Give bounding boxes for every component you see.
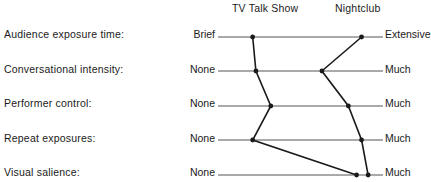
nightclub-node-4: [366, 173, 371, 178]
nightclub-node-0: [359, 35, 364, 40]
tv-talk-show-node-4: [354, 173, 359, 178]
nightclub-node-2: [346, 104, 351, 109]
nightclub-node-1: [320, 69, 325, 74]
tv-talk-show-node-2: [268, 104, 273, 109]
nightclub-node-3: [359, 138, 364, 143]
tv-talk-show-node-3: [250, 138, 255, 143]
tv-talk-show-node-1: [254, 69, 259, 74]
tv-talk-show-node-0: [250, 35, 255, 40]
